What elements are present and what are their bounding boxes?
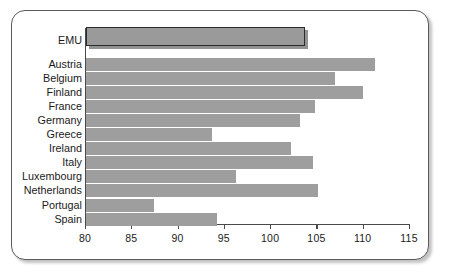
category-label: France bbox=[0, 100, 82, 112]
category-label: Ireland bbox=[0, 142, 82, 154]
bar bbox=[86, 213, 217, 226]
bar-row: Germany bbox=[0, 114, 449, 127]
x-tick-label: 115 bbox=[400, 232, 417, 244]
category-label: Finland bbox=[0, 86, 82, 98]
bar bbox=[86, 114, 300, 127]
x-tick-label: 110 bbox=[354, 232, 371, 244]
bar-emu bbox=[86, 27, 305, 46]
x-tick-label: 85 bbox=[125, 232, 137, 244]
bar bbox=[86, 58, 375, 71]
category-label: Italy bbox=[0, 156, 82, 168]
x-tick-label: 80 bbox=[79, 232, 91, 244]
bar bbox=[86, 184, 318, 197]
bar-row: France bbox=[0, 100, 449, 113]
bar bbox=[86, 170, 236, 183]
bar-row: Austria bbox=[0, 58, 449, 71]
bar bbox=[86, 86, 363, 99]
category-label: Portugal bbox=[0, 199, 82, 211]
bar bbox=[86, 72, 335, 85]
bar bbox=[86, 199, 154, 212]
x-tick-label: 105 bbox=[307, 232, 325, 244]
category-label: Greece bbox=[0, 128, 82, 140]
x-tick-label: 95 bbox=[218, 232, 230, 244]
category-label: Luxembourg bbox=[0, 170, 82, 182]
category-label: Spain bbox=[0, 213, 82, 225]
x-tick-label: 100 bbox=[261, 232, 279, 244]
category-label: Belgium bbox=[0, 72, 82, 84]
bar-row: Finland bbox=[0, 86, 449, 99]
x-tick-label: 90 bbox=[172, 232, 184, 244]
bar bbox=[86, 142, 291, 155]
bar bbox=[86, 128, 212, 141]
chart-screenshot: 80859095100105110115 EMUAustriaBelgiumFi… bbox=[0, 0, 449, 278]
bar-row: Portugal bbox=[0, 199, 449, 212]
category-label: Netherlands bbox=[0, 184, 82, 196]
bar-row: Netherlands bbox=[0, 184, 449, 197]
bar bbox=[86, 156, 313, 169]
bar-row: Spain bbox=[0, 213, 449, 226]
bar-row: Italy bbox=[0, 156, 449, 169]
category-label: EMU bbox=[0, 34, 82, 46]
bar-row: Greece bbox=[0, 128, 449, 141]
category-label: Austria bbox=[0, 58, 82, 70]
bar-row-highlight: EMU bbox=[0, 30, 449, 43]
bar-row: Belgium bbox=[0, 72, 449, 85]
bar bbox=[86, 100, 315, 113]
bar-row: Ireland bbox=[0, 142, 449, 155]
category-label: Germany bbox=[0, 114, 82, 126]
bar-row: Luxembourg bbox=[0, 170, 449, 183]
